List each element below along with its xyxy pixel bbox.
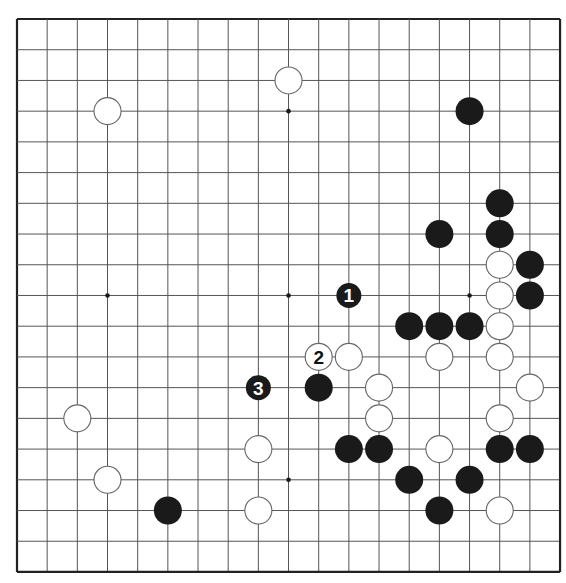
- white-stone[interactable]: [426, 436, 453, 463]
- white-stone[interactable]: [275, 67, 302, 94]
- star-point-icon: [286, 109, 291, 114]
- black-stone[interactable]: [425, 497, 453, 525]
- black-stone[interactable]: [516, 281, 544, 309]
- black-stone[interactable]: [335, 435, 363, 463]
- black-stone[interactable]: [486, 189, 514, 217]
- star-point-icon: [105, 293, 110, 298]
- black-stone[interactable]: [395, 312, 423, 340]
- move-number-label: 3: [253, 378, 264, 399]
- black-stone[interactable]: [456, 466, 484, 494]
- white-stone[interactable]: [486, 313, 513, 340]
- white-stone[interactable]: [335, 343, 362, 370]
- white-stone[interactable]: [245, 436, 272, 463]
- numbered-moves: 123: [246, 283, 362, 400]
- black-stone[interactable]: [456, 97, 484, 125]
- black-stone[interactable]: [425, 312, 453, 340]
- star-point-icon: [467, 293, 472, 298]
- white-stone[interactable]: [486, 251, 513, 278]
- numbered-move-2[interactable]: 2: [305, 343, 332, 370]
- go-board-svg[interactable]: 123: [0, 0, 566, 583]
- go-board[interactable]: 123: [0, 0, 566, 583]
- black-stone[interactable]: [365, 435, 393, 463]
- move-number-label: 2: [313, 347, 324, 368]
- star-point-icon: [286, 478, 291, 483]
- black-stone[interactable]: [154, 497, 182, 525]
- white-stone[interactable]: [94, 466, 121, 493]
- white-stone[interactable]: [366, 405, 393, 432]
- numbered-move-3[interactable]: 3: [246, 375, 271, 400]
- black-stone[interactable]: [486, 435, 514, 463]
- white-stone[interactable]: [486, 343, 513, 370]
- numbered-move-1[interactable]: 1: [336, 283, 361, 308]
- white-stone[interactable]: [426, 343, 453, 370]
- star-point-icon: [286, 293, 291, 298]
- black-stone[interactable]: [305, 374, 333, 402]
- black-stone[interactable]: [425, 220, 453, 248]
- black-stone[interactable]: [486, 220, 514, 248]
- white-stone[interactable]: [64, 405, 91, 432]
- black-stone[interactable]: [456, 312, 484, 340]
- white-stone[interactable]: [94, 98, 121, 125]
- black-stone[interactable]: [516, 251, 544, 279]
- white-stone[interactable]: [245, 497, 272, 524]
- white-stone[interactable]: [516, 374, 543, 401]
- white-stone[interactable]: [486, 497, 513, 524]
- white-stone[interactable]: [486, 282, 513, 309]
- white-stone[interactable]: [366, 374, 393, 401]
- move-number-label: 1: [344, 285, 355, 306]
- white-stone[interactable]: [486, 405, 513, 432]
- black-stone[interactable]: [516, 435, 544, 463]
- black-stone[interactable]: [395, 466, 423, 494]
